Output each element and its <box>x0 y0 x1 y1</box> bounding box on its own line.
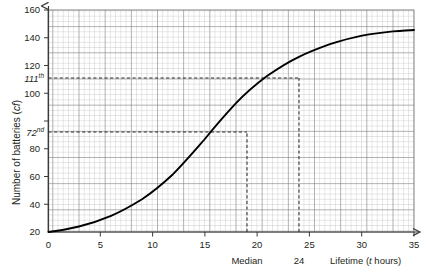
x-axis-title-suffix: hours) <box>372 255 402 266</box>
chart-canvas <box>0 0 440 272</box>
y-axis-title: Number of batteries (cf) <box>11 100 22 205</box>
y-tick-label-120: 120 <box>12 61 40 71</box>
y-tick-label-160: 160 <box>12 5 40 15</box>
x-axis-title-prefix: Lifetime ( <box>330 255 369 266</box>
y-tick-label-140: 140 <box>12 33 40 43</box>
ordinal-111-base: 111 <box>24 73 38 84</box>
x-tick-label-15: 15 <box>195 240 215 250</box>
cumulative-frequency-chart: 160 140 120 100 80 60 40 20 111th 72nd 0… <box>0 0 440 272</box>
quartile-24-annotation: 24 <box>284 255 314 266</box>
x-tick-label-0: 0 <box>39 240 59 250</box>
x-tick-label-30: 30 <box>352 240 372 250</box>
x-axis-title: Lifetime (t hours) <box>330 255 401 266</box>
plot-grid <box>48 10 414 232</box>
y-annotation-111th: 111th <box>6 73 44 84</box>
x-tick-label-10: 10 <box>143 240 163 250</box>
x-tick-label-25: 25 <box>299 240 319 250</box>
x-tick-label-35: 35 <box>404 240 424 250</box>
x-tick-marks <box>100 232 414 237</box>
x-tick-label-5: 5 <box>90 240 110 250</box>
x-tick-label-20: 20 <box>247 240 267 250</box>
ordinal-72-base: 72 <box>26 127 37 138</box>
ordinal-72-suffix: nd <box>37 126 44 133</box>
y-axis-title-suffix: ) <box>11 100 22 103</box>
ordinal-111-suffix: th <box>39 72 44 79</box>
y-axis-title-prefix: Number of batteries ( <box>11 111 22 205</box>
y-tick-label-100: 100 <box>12 89 40 99</box>
y-axis-title-italic: cf <box>11 103 22 111</box>
median-annotation: Median <box>217 255 277 266</box>
y-tick-label-20: 20 <box>12 227 40 237</box>
